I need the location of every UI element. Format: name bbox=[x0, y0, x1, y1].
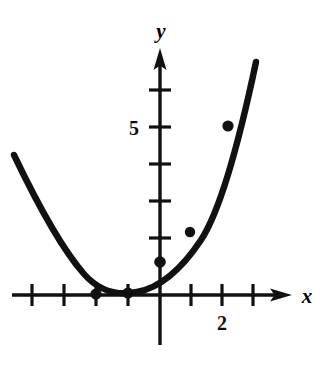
parabola-figure: y 5 x 2 bbox=[0, 0, 322, 365]
plotted-points-group bbox=[90, 120, 233, 299]
parabola-curve bbox=[14, 62, 256, 293]
data-point-upper bbox=[222, 120, 233, 131]
coordinate-plane-svg: y 5 x 2 bbox=[0, 0, 322, 365]
y-tick-label-5: 5 bbox=[129, 117, 139, 139]
x-tick-label-2: 2 bbox=[217, 312, 227, 334]
data-point-mid bbox=[185, 227, 195, 237]
x-axis-label: x bbox=[301, 284, 313, 308]
data-point-root-right bbox=[122, 287, 133, 298]
y-axis-label: y bbox=[153, 19, 166, 43]
data-point-y-intercept bbox=[154, 256, 166, 268]
x-axis-group: x 2 bbox=[12, 284, 312, 334]
data-point-root-left bbox=[90, 288, 101, 299]
